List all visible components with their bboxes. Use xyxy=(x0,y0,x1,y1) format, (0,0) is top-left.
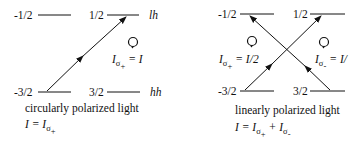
intensity-plus-label: Iσ+= I/2 xyxy=(218,53,259,71)
level-label-half: 1/2 xyxy=(89,9,104,21)
formula-linear: I = Iσ++ Iσ- xyxy=(234,121,291,139)
circular-polarization-icon-minus xyxy=(320,38,329,49)
caption-circular: circularly polarized light xyxy=(25,102,139,115)
caption-linear: linearly polarized light xyxy=(235,104,341,117)
intensity-label: Iσ+= I xyxy=(111,53,144,71)
band-label-hh: hh xyxy=(150,86,162,98)
intensity-minus-label: Iσ-= I/ xyxy=(314,53,349,71)
band-label-lh: lh xyxy=(149,9,158,21)
formula-circular: I = Iσ+ xyxy=(24,118,56,136)
level-label-three-half: 3/2 xyxy=(89,86,104,98)
level-label-minus-half: -1/2 xyxy=(218,8,237,20)
level-label-minus-three-half: -3/2 xyxy=(218,85,237,97)
level-label-half: 1/2 xyxy=(293,8,308,20)
sigma-plus-arrow-lower xyxy=(245,64,272,90)
level-label-three-half: 3/2 xyxy=(293,85,308,97)
level-label-minus-three-half: -3/2 xyxy=(14,86,33,98)
circular-polarization-icon xyxy=(129,38,138,49)
transition-arrow-lower xyxy=(47,56,83,91)
level-label-minus-half: -1/2 xyxy=(14,9,33,21)
transition-arrow-upper xyxy=(82,17,126,57)
right-panel: -1/2 1/2 -3/2 3/2 Iσ+= I/2 Iσ-= I/ linea… xyxy=(218,8,349,139)
polarization-diagram: -1/2 1/2 lh -3/2 3/2 hh Iσ+= I circularl… xyxy=(0,0,354,146)
circular-polarization-icon-plus xyxy=(248,37,257,48)
left-panel: -1/2 1/2 lh -3/2 3/2 hh Iσ+= I circularl… xyxy=(14,9,162,136)
